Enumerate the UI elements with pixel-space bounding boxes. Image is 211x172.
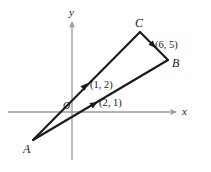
vector-triangle-figure: A B C O x y (1, 2) (2, 1) (6, 5) (0, 0, 211, 172)
vector-cb-label: (6, 5) (155, 40, 178, 51)
vertex-label-a: A (23, 143, 30, 155)
vector-ac-label: (1, 2) (90, 80, 113, 91)
vertex-label-b: B (172, 57, 179, 69)
vertex-label-c: C (135, 17, 143, 29)
origin-label: O (63, 101, 70, 111)
vector-ab-label: (2, 1) (99, 98, 122, 109)
y-axis-label: y (69, 7, 74, 18)
x-axis-label: x (182, 106, 187, 117)
